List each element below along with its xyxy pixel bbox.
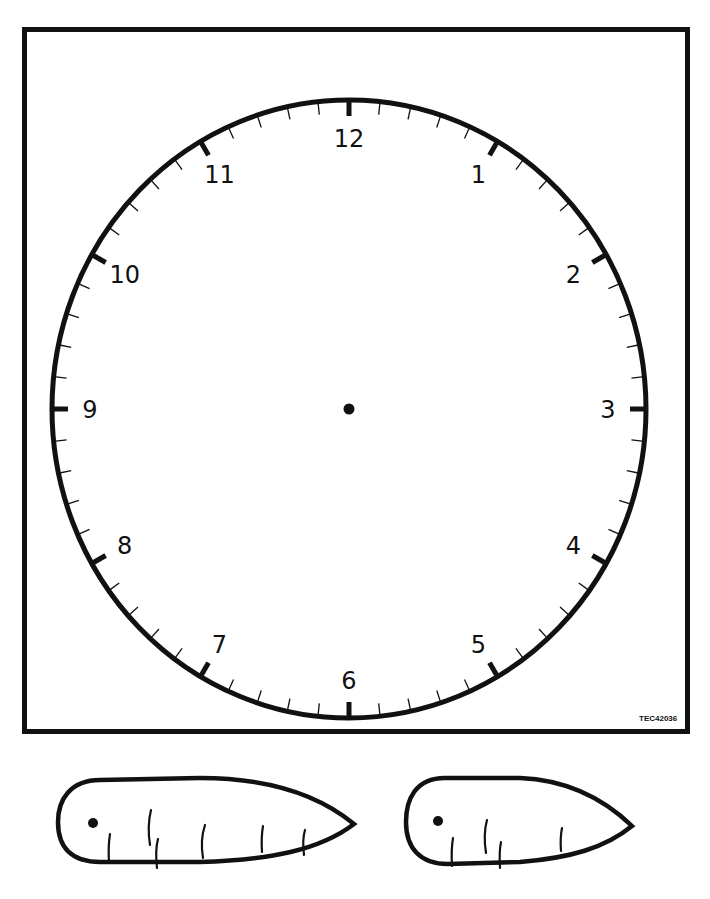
numeral-11: 11: [204, 161, 235, 189]
numeral-1: 1: [471, 161, 486, 189]
pivot-dot-icon: [344, 404, 355, 415]
numeral-12: 12: [334, 125, 365, 153]
numeral-2: 2: [566, 261, 581, 289]
hour-hand-cutout[interactable]: [406, 778, 632, 868]
clock-worksheet: 121234567891011 TEC42036: [0, 0, 710, 899]
numeral-4: 4: [566, 532, 581, 560]
numeral-9: 9: [82, 396, 97, 424]
hole-dot-icon: [433, 816, 443, 826]
clock-face: 121234567891011: [52, 100, 646, 718]
hole-dot-icon: [88, 818, 98, 828]
numeral-3: 3: [600, 396, 615, 424]
product-code: TEC42036: [639, 714, 678, 723]
numeral-8: 8: [117, 532, 132, 560]
minute-hand-outline: [58, 778, 354, 862]
numeral-5: 5: [471, 631, 486, 659]
numeral-10: 10: [109, 261, 140, 289]
numeral-7: 7: [212, 631, 227, 659]
numeral-6: 6: [341, 667, 356, 695]
minute-hand-cutout[interactable]: [58, 778, 354, 868]
